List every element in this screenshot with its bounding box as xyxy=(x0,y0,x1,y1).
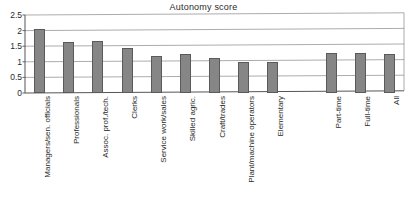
chart-title: Autonomy score xyxy=(0,2,407,12)
bar xyxy=(355,53,366,93)
y-axis-tick-labels: 00.511.522.5 xyxy=(0,15,22,93)
y-tick-label: 0.5 xyxy=(10,73,22,82)
x-axis-label-text: Part-time xyxy=(335,96,343,128)
x-axis-label: Service work/sales xyxy=(160,96,168,163)
x-axis-label: Full-time xyxy=(364,96,372,127)
x-axis-label-text: Full-time xyxy=(364,96,372,127)
x-axis-label: Clerks xyxy=(131,96,139,119)
y-tick-label: 0 xyxy=(17,89,22,98)
bar xyxy=(92,41,103,93)
x-axis-label-text: Plant/machine operators xyxy=(248,96,256,183)
x-axis-label-text: Service work/sales xyxy=(160,96,168,163)
bar xyxy=(238,62,249,93)
x-axis-label: Skilled agric. xyxy=(189,96,197,141)
x-axis-category-labels: Managers/sen. officialsProfessionalsAsso… xyxy=(25,96,404,218)
x-axis-label-text: All xyxy=(393,96,401,105)
x-axis-label: Elementary xyxy=(277,96,285,136)
x-axis-label: Craft/trades xyxy=(219,96,227,138)
bar xyxy=(384,54,395,93)
y-tick-label: 2.5 xyxy=(10,11,22,20)
bar xyxy=(326,53,337,93)
x-axis-label-text: Assoc. prof./tech. xyxy=(102,96,110,158)
bar xyxy=(122,48,133,93)
x-axis-label-text: Managers/sen. officials xyxy=(44,96,52,178)
bar xyxy=(180,54,191,93)
bar xyxy=(34,29,45,93)
x-axis-label-text: Elementary xyxy=(277,96,285,136)
autonomy-score-chart: Autonomy score 00.511.522.5 Managers/sen… xyxy=(0,0,407,219)
x-axis-label: Part-time xyxy=(335,96,343,128)
y-tick-label: 1 xyxy=(17,58,22,67)
bar xyxy=(209,58,220,93)
x-axis-label: All xyxy=(393,96,401,105)
bar xyxy=(63,42,74,93)
bar xyxy=(267,62,278,93)
x-axis-label-text: Skilled agric. xyxy=(189,96,197,141)
bar xyxy=(151,56,162,93)
x-axis-label: Professionals xyxy=(73,96,81,144)
x-axis-label: Plant/machine operators xyxy=(248,96,256,183)
bars-layer xyxy=(25,15,404,93)
x-axis-label-text: Clerks xyxy=(131,96,139,119)
x-axis-label-text: Professionals xyxy=(73,96,81,144)
x-axis-label: Managers/sen. officials xyxy=(44,96,52,178)
x-axis-label-text: Craft/trades xyxy=(219,96,227,138)
x-axis-label: Assoc. prof./tech. xyxy=(102,96,110,158)
y-tick-label: 1.5 xyxy=(10,42,22,51)
y-tick-label: 2 xyxy=(17,26,22,35)
